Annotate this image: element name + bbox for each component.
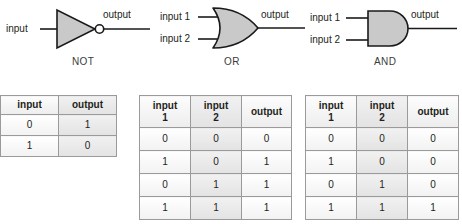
table-cell: 0 <box>408 174 459 197</box>
table-cell: 1 <box>140 197 191 220</box>
table-cell: 0 <box>306 128 357 151</box>
table-cell: 1 <box>408 197 459 220</box>
table-cell: 0 <box>306 174 357 197</box>
table-cell: 0 <box>59 136 117 157</box>
and-gate-diagram: input 1 input 2 output AND <box>310 0 462 80</box>
or-input1-label: input 1 <box>160 11 190 22</box>
and-gate-name: AND <box>374 56 396 67</box>
table-cell: 1 <box>357 197 408 220</box>
table-header-cell: output <box>59 96 117 115</box>
not-gate-diagram: input output NOT <box>0 0 155 80</box>
not-input-label: input <box>6 23 28 34</box>
and-input1-label: input 1 <box>310 12 340 23</box>
table-header-cell: input 2 <box>191 96 242 128</box>
not-output-label: output <box>103 9 131 20</box>
table-cell: 1 <box>191 174 242 197</box>
table-cell: 0 <box>357 128 408 151</box>
table-cell: 0 <box>242 128 292 151</box>
table-cell: 1 <box>59 115 117 136</box>
header-text-line2: 2 <box>357 112 407 124</box>
table-header-row: input 1 input 2 output <box>306 96 459 128</box>
table-row: 1 1 1 <box>306 197 459 220</box>
header-text-line2: 1 <box>306 112 356 124</box>
table-header-cell: input 1 <box>140 96 191 128</box>
not-gate-name: NOT <box>72 56 94 67</box>
table-header-row: input output <box>1 96 117 115</box>
table-cell: 1 <box>191 197 242 220</box>
table-cell: 0 <box>140 128 191 151</box>
header-text: input <box>319 100 343 111</box>
table-header-cell: output <box>408 96 459 128</box>
header-text: output <box>417 106 448 117</box>
table-cell: 0 <box>357 151 408 174</box>
table-header-cell: input 1 <box>306 96 357 128</box>
table-cell: 1 <box>1 136 59 157</box>
header-text: output <box>251 106 282 117</box>
header-text-line2: 1 <box>140 112 190 124</box>
and-shape <box>368 11 408 46</box>
table-cell: 0 <box>408 128 459 151</box>
header-text: input <box>204 100 228 111</box>
table-row: 1 1 1 <box>140 197 292 220</box>
table-cell: 1 <box>242 174 292 197</box>
table-row: 0 1 0 <box>306 174 459 197</box>
table-row: 0 1 <box>1 115 117 136</box>
table-header-cell: output <box>242 96 292 128</box>
header-text: input <box>153 100 177 111</box>
table-cell: 0 <box>408 151 459 174</box>
or-gate-name: OR <box>224 56 240 67</box>
header-text: input <box>17 99 41 110</box>
table-cell: 1 <box>140 151 191 174</box>
table-header-row: input 1 input 2 output <box>140 96 292 128</box>
table-row: 0 0 0 <box>140 128 292 151</box>
not-gate-svg <box>0 0 155 80</box>
header-text-line2: 2 <box>191 112 241 124</box>
or-shape <box>213 8 258 48</box>
table-row: 1 0 0 <box>306 151 459 174</box>
table-row: 1 0 <box>1 136 117 157</box>
header-text: input <box>370 100 394 111</box>
not-truth-table: input output 0 1 1 0 <box>0 95 117 157</box>
or-input2-label: input 2 <box>160 33 190 44</box>
not-triangle <box>57 10 95 48</box>
table-header-cell: input 2 <box>357 96 408 128</box>
table-cell: 0 <box>1 115 59 136</box>
table-row: 0 1 1 <box>140 174 292 197</box>
table-cell: 0 <box>140 174 191 197</box>
and-input2-label: input 2 <box>310 34 340 45</box>
header-text: output <box>72 99 103 110</box>
table-cell: 1 <box>306 151 357 174</box>
table-header-cell: input <box>1 96 59 115</box>
and-truth-table: input 1 input 2 output 0 0 0 1 0 0 0 1 0 <box>305 95 459 220</box>
table-cell: 0 <box>191 128 242 151</box>
and-output-label: output <box>411 9 439 20</box>
not-bubble <box>95 25 103 33</box>
table-cell: 1 <box>242 151 292 174</box>
or-output-label: output <box>261 9 289 20</box>
or-truth-table: input 1 input 2 output 0 0 0 1 0 1 0 1 1 <box>139 95 292 220</box>
or-gate-diagram: input 1 input 2 output OR <box>155 0 310 80</box>
table-row: 1 0 1 <box>140 151 292 174</box>
table-cell: 1 <box>242 197 292 220</box>
table-cell: 1 <box>306 197 357 220</box>
table-cell: 1 <box>357 174 408 197</box>
table-cell: 0 <box>191 151 242 174</box>
table-row: 0 0 0 <box>306 128 459 151</box>
